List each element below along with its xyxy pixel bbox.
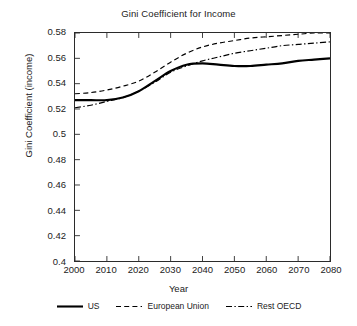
y-tick-label: 0.58: [48, 27, 67, 37]
chart-figure: Gini Coefficient for Income Gini Coeffic…: [0, 0, 357, 326]
series-line-us: [75, 58, 330, 100]
chart-title: Gini Coefficient for Income: [0, 8, 357, 19]
series-line-rest-oecd: [75, 42, 330, 108]
legend-label: European Union: [147, 302, 208, 311]
x-tick-label: 2000: [63, 264, 84, 276]
legend-item-us[interactable]: US: [56, 302, 100, 311]
y-tick-label: 0.42: [48, 231, 67, 241]
legend-swatch-solid: [56, 302, 84, 311]
legend-item-european-union[interactable]: European Union: [115, 302, 208, 311]
legend-swatch-dashed: [115, 302, 143, 311]
plot-area: [74, 32, 331, 262]
legend-swatch-dashdot: [225, 302, 253, 311]
x-tick-label: 2010: [96, 264, 117, 276]
x-tick-label: 2070: [288, 264, 309, 276]
x-tick-label: 2060: [256, 264, 277, 276]
x-tick-label: 2020: [128, 264, 149, 276]
legend-label: US: [88, 302, 100, 311]
x-tick-label: 2050: [224, 264, 245, 276]
x-tick-label: 2080: [320, 264, 341, 276]
x-tick-label: 2040: [192, 264, 213, 276]
x-axis-tick-labels: 200020102020203020402050206020702080: [0, 264, 357, 280]
chart-legend: USEuropean UnionRest OECD: [0, 302, 357, 311]
plot-lines: [75, 33, 330, 261]
y-tick-label: 0.48: [48, 155, 67, 165]
y-tick-label: 0.44: [48, 206, 67, 216]
y-tick-label: 0.56: [48, 53, 67, 63]
x-tick-label: 2030: [160, 264, 181, 276]
y-axis-tick-labels: 0.40.420.440.460.480.50.520.540.560.58: [0, 32, 72, 262]
y-tick-label: 0.54: [48, 78, 67, 88]
y-tick-label: 0.5: [53, 129, 66, 139]
legend-label: Rest OECD: [257, 302, 301, 311]
y-tick-label: 0.46: [48, 180, 67, 190]
x-axis-title: Year: [0, 283, 357, 294]
legend-item-rest-oecd[interactable]: Rest OECD: [225, 302, 301, 311]
y-tick-label: 0.52: [48, 104, 67, 114]
